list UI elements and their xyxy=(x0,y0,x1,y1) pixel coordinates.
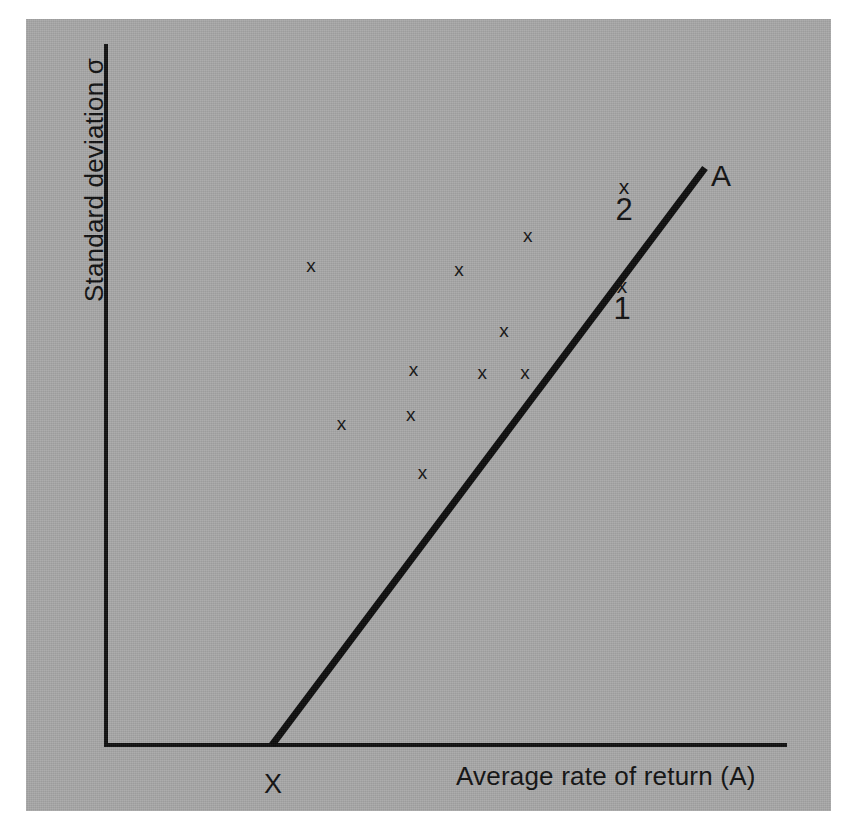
marked-point-2: x 2 xyxy=(609,179,639,225)
marked-point-2-label: 2 xyxy=(609,195,639,225)
scatter-point-marker-icon: x xyxy=(409,359,419,378)
scatter-point-marker-icon: x xyxy=(477,363,487,382)
plot-canvas xyxy=(26,19,831,811)
figure-root: Standard deviation σ Average rate of ret… xyxy=(0,0,855,833)
line-end-label-a: A xyxy=(711,161,731,191)
scatter-point-marker-icon: x xyxy=(520,363,530,382)
line-of-fit-A xyxy=(272,168,705,745)
scatter-point-marker-icon: x xyxy=(499,321,509,340)
x-axis-label: Average rate of return (A) xyxy=(456,763,756,789)
marked-point-1: x 1 xyxy=(607,278,637,324)
y-axis-label: Standard deviation σ xyxy=(81,50,107,310)
scatter-point-marker-icon: x xyxy=(337,414,347,433)
marked-point-1-label: 1 xyxy=(607,294,637,324)
scatter-point-marker-icon: x xyxy=(406,405,416,424)
scatter-point-marker-icon: x xyxy=(306,256,316,275)
scatter-point-marker-icon: x xyxy=(454,259,464,278)
scatter-point-marker-icon: x xyxy=(523,225,533,244)
line-origin-label-x: X xyxy=(264,771,282,798)
plot-panel: Standard deviation σ Average rate of ret… xyxy=(26,19,831,811)
scatter-point-marker-icon: x xyxy=(418,463,428,482)
